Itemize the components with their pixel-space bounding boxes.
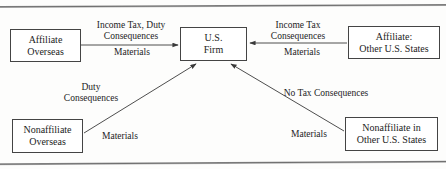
node-affiliate-other-us-states-label: Affiliate: Other U.S. States xyxy=(359,31,428,55)
node-us-firm-label: U.S. Firm xyxy=(204,32,223,56)
node-nonaffiliate-overseas: Nonaffiliate Overseas xyxy=(12,119,83,153)
bottom-horizontal-rule xyxy=(0,161,446,166)
node-nonaffiliate-overseas-label: Nonaffiliate Overseas xyxy=(23,124,71,148)
top-horizontal-rule xyxy=(0,4,446,8)
diagram-canvas: Affiliate Overseas U.S. Firm Affiliate: … xyxy=(0,0,446,169)
node-affiliate-overseas: Affiliate Overseas xyxy=(10,29,81,62)
node-us-firm: U.S. Firm xyxy=(180,27,247,61)
node-affiliate-overseas-label: Affiliate Overseas xyxy=(27,34,64,58)
node-nonaffiliate-other-us-states-label: Nonaffiliate in Other U.S. States xyxy=(357,122,426,146)
edge-label-affiliate-overseas-below: Materials xyxy=(92,47,172,58)
node-nonaffiliate-other-us-states: Nonaffiliate in Other U.S. States xyxy=(345,117,438,151)
edge-label-affiliate-overseas-above: Income Tax, Duty Consequences xyxy=(83,20,179,42)
edge-label-nonaffiliate-overseas-above: Duty Consequences xyxy=(48,82,134,104)
edge-label-affiliate-states-above: Income Tax Consequences xyxy=(250,20,346,42)
node-affiliate-other-us-states: Affiliate: Other U.S. States xyxy=(348,26,440,59)
edge-label-affiliate-states-below: Materials xyxy=(262,47,342,58)
edge-label-nonaffiliate-states-below: Materials xyxy=(281,129,337,140)
edge-label-nonaffiliate-states-above: No Tax Consequences xyxy=(264,88,388,99)
edge-label-nonaffiliate-overseas-below: Materials xyxy=(92,131,148,142)
